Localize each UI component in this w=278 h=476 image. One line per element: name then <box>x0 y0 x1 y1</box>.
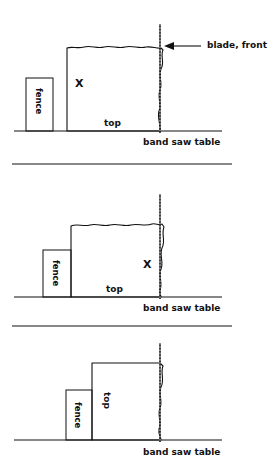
panel-1-drawing <box>0 0 278 165</box>
panel-1: fence X top blade, front band saw table <box>0 0 278 165</box>
blade-front-label: blade, front <box>207 41 267 50</box>
band-saw-table-caption: band saw table <box>143 138 220 147</box>
top-label: top <box>102 392 111 409</box>
panel-3: fence top band saw table <box>0 330 278 476</box>
panel-separator-1 <box>0 160 278 168</box>
top-label: top <box>104 119 121 128</box>
panel-2-drawing <box>0 168 278 320</box>
blade-callout-arrowhead <box>164 42 174 50</box>
diagram-canvas: fence X top blade, front band saw table … <box>0 0 278 476</box>
fence-label: fence <box>74 402 83 428</box>
band-saw-table-caption: band saw table <box>143 304 220 313</box>
fence-label: fence <box>35 88 44 114</box>
panel-separator-2 <box>0 322 278 330</box>
top-label: top <box>106 285 123 294</box>
band-saw-table-caption: band saw table <box>143 448 220 457</box>
panel-3-drawing <box>0 330 278 476</box>
mark-x-label: X <box>143 259 151 270</box>
mark-x-label: X <box>75 78 83 89</box>
fence-label: fence <box>52 260 61 286</box>
panel-2: fence X top band saw table <box>0 168 278 320</box>
